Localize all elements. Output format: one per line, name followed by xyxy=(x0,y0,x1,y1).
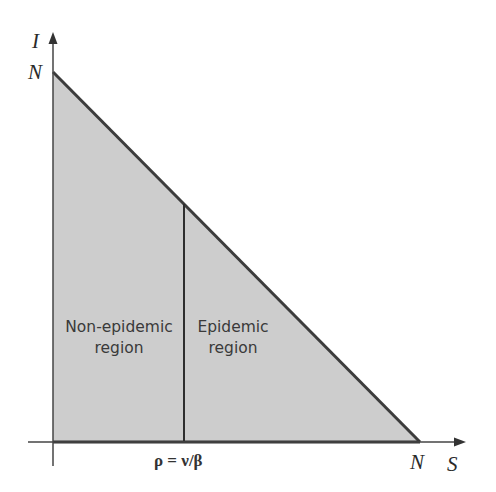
epidemic-line1: Epidemic xyxy=(188,317,278,338)
epidemic-line2: region xyxy=(188,338,278,359)
x-axis-label: S xyxy=(447,454,458,475)
threshold-label: ρ = ν/β xyxy=(154,452,203,469)
diagram-canvas xyxy=(0,0,496,492)
y-axis-arrowhead-icon xyxy=(49,32,58,44)
x-intercept-label: N xyxy=(410,452,424,473)
y-intercept-label: N xyxy=(28,62,42,83)
sir-phase-diagram: I N N S ρ = ν/β Non-epidemic region Epid… xyxy=(0,0,496,492)
epidemic-region-label: Epidemic region xyxy=(188,317,278,359)
non-epidemic-line2: region xyxy=(56,338,182,359)
non-epidemic-line1: Non-epidemic xyxy=(56,317,182,338)
non-epidemic-region-label: Non-epidemic region xyxy=(56,317,182,359)
y-axis-label: I xyxy=(32,31,39,52)
x-axis-arrowhead-icon xyxy=(454,438,466,447)
